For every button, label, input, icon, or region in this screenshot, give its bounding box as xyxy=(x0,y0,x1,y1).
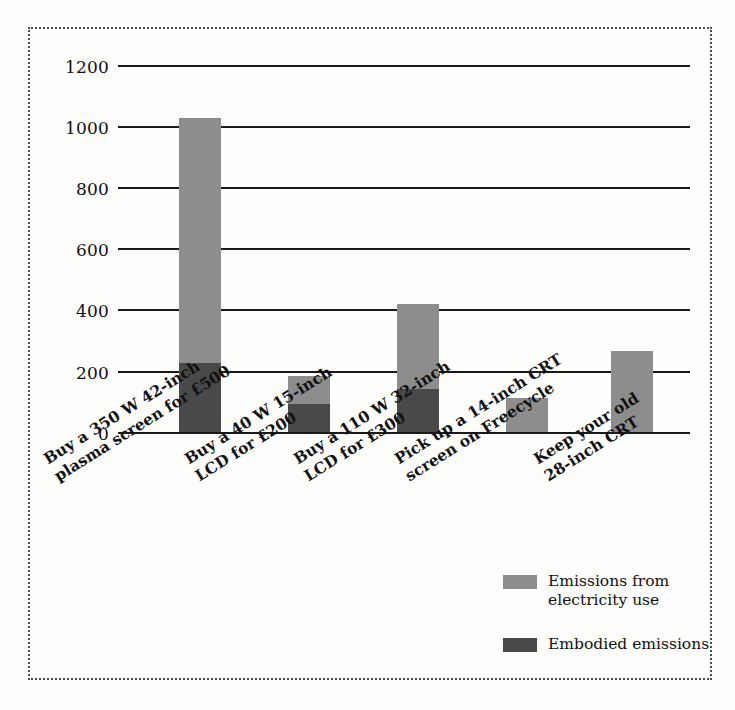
bar-segment-electricity-0 xyxy=(179,118,221,363)
bar-group-3[interactable] xyxy=(506,398,548,432)
ytick-label-1000: 1000 xyxy=(65,118,109,138)
legend-swatch-embodied-icon xyxy=(503,638,537,652)
bar-segment-embodied-2 xyxy=(397,389,439,432)
bar-segment-electricity-1 xyxy=(288,376,330,404)
bar-segment-electricity-3 xyxy=(506,398,548,432)
ytick-label-200: 200 xyxy=(76,363,109,383)
gridline-1200: 1200 xyxy=(118,65,690,67)
bar-group-4[interactable] xyxy=(611,351,653,432)
bar-segment-embodied-1 xyxy=(288,404,330,432)
bar-group-0[interactable] xyxy=(179,118,221,432)
chart-legend: Emissions from electricity use Embodied … xyxy=(503,572,713,679)
legend-label-embodied: Embodied emissions xyxy=(548,635,713,654)
legend-swatch-electricity-icon xyxy=(503,575,537,589)
legend-label-electricity: Emissions from electricity use xyxy=(548,572,713,611)
ytick-label-1200: 1200 xyxy=(65,57,109,77)
legend-item-electricity[interactable]: Emissions from electricity use xyxy=(503,572,713,611)
gridline-0-axis: 0 xyxy=(118,432,690,434)
ytick-label-800: 800 xyxy=(76,179,109,199)
bar-segment-embodied-0 xyxy=(179,363,221,432)
ytick-label-0: 0 xyxy=(98,424,109,444)
ytick-label-600: 600 xyxy=(76,240,109,260)
ytick-label-400: 400 xyxy=(76,301,109,321)
bar-segment-electricity-2 xyxy=(397,304,439,389)
bar-group-2[interactable] xyxy=(397,304,439,432)
plot-area: 1200 1000 800 600 400 200 0 xyxy=(118,60,690,437)
chart-figure: 1200 1000 800 600 400 200 0 xyxy=(0,0,735,710)
bar-group-1[interactable] xyxy=(288,376,330,432)
legend-item-embodied[interactable]: Embodied emissions xyxy=(503,635,713,655)
bar-segment-electricity-4 xyxy=(611,351,653,432)
